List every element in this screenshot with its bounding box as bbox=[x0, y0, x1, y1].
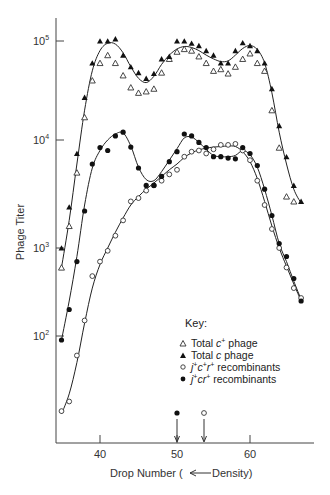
legend-item-jcr-plus: j+cr+ recombinants bbox=[181, 373, 277, 385]
open-circle-marker-icon bbox=[270, 227, 275, 232]
filled-triangle-marker-icon bbox=[203, 48, 209, 53]
open-triangle-marker-icon bbox=[196, 54, 202, 59]
filled-circle-marker-icon bbox=[151, 183, 156, 188]
open-triangle-marker-icon bbox=[82, 114, 88, 119]
y-axis-title: Phage Titer bbox=[14, 204, 26, 261]
legend-label-total-c-plus: Total c+ phage bbox=[191, 337, 258, 349]
phage-titer-chart: 105 104 103 102 40 50 60 Phage Titer Dro… bbox=[0, 0, 330, 495]
filled-circle-marker-icon bbox=[291, 276, 296, 281]
filled-circle-marker-icon bbox=[90, 161, 95, 166]
filled-circle-marker-icon bbox=[226, 156, 231, 161]
open-triangle-marker-icon bbox=[105, 52, 111, 57]
filled-triangle-marker-icon bbox=[240, 40, 246, 45]
open-circle-marker-icon bbox=[262, 203, 267, 208]
filled-triangle-marker-icon bbox=[181, 38, 187, 43]
legend-title: Key: bbox=[185, 317, 207, 329]
y-tick-label-1e4: 104 bbox=[33, 133, 49, 146]
open-circle-marker-icon bbox=[204, 151, 209, 156]
filled-circle-marker-icon bbox=[233, 156, 238, 161]
filled-circle-marker-icon bbox=[113, 133, 118, 138]
open-triangle-marker-icon bbox=[211, 68, 217, 73]
open-circle-marker-icon bbox=[121, 218, 126, 223]
filled-circle-marker-icon bbox=[299, 298, 304, 303]
open-triangle-marker-icon bbox=[232, 64, 238, 69]
filled-circle-marker-icon bbox=[189, 133, 194, 138]
filled-circle-marker-icon bbox=[67, 307, 72, 312]
filled-circle-marker-icon bbox=[247, 151, 252, 156]
filled-triangle-marker-icon bbox=[232, 48, 238, 53]
filled-circle-marker-icon bbox=[159, 174, 164, 179]
legend-label-jcr-plus-plus: j+c+r+ recombinants bbox=[189, 361, 280, 373]
x-tick-label-40: 40 bbox=[94, 448, 106, 460]
open-circle-marker-icon bbox=[82, 318, 87, 323]
open-circle-marker-icon bbox=[189, 149, 194, 154]
filled-circle-marker-icon bbox=[284, 254, 289, 259]
open-circle-marker-icon bbox=[144, 188, 149, 193]
filled-triangle-marker-icon bbox=[97, 38, 103, 43]
filled-circle-marker-icon bbox=[105, 148, 110, 153]
open-circle-marker-icon bbox=[226, 143, 231, 148]
open-triangle-marker-icon bbox=[66, 223, 72, 228]
legend-item-total-c-plus: Total c+ phage bbox=[180, 337, 258, 349]
legend-item-jcr-plus-plus: j+c+r+ recombinants bbox=[181, 361, 281, 373]
open-triangle-marker-icon bbox=[247, 51, 253, 56]
filled-circle-marker-icon bbox=[82, 208, 87, 213]
open-triangle-marker-icon bbox=[120, 73, 126, 78]
filled-triangle-marker-icon bbox=[254, 48, 260, 53]
open-triangle-icon bbox=[180, 341, 186, 347]
filled-triangle-marker-icon bbox=[120, 52, 126, 57]
open-circle-marker-icon bbox=[113, 233, 118, 238]
open-circle-marker-icon bbox=[136, 196, 141, 201]
filled-circle-marker-icon bbox=[59, 337, 64, 342]
y-ticks: 105 104 103 102 bbox=[33, 34, 64, 342]
open-triangle-marker-icon bbox=[203, 60, 209, 65]
open-circle-marker-icon bbox=[182, 154, 187, 159]
open-circle-marker-icon bbox=[211, 147, 216, 152]
filled-circle-marker-icon bbox=[262, 187, 267, 192]
open-triangle-marker-icon bbox=[136, 90, 142, 95]
open-triangle-marker-icon bbox=[269, 107, 275, 112]
open-circle-marker-icon bbox=[98, 259, 103, 264]
filled-triangle-marker-icon bbox=[166, 54, 172, 59]
filled-circle-marker-icon bbox=[182, 131, 187, 136]
y-tick-label-1e2: 102 bbox=[33, 329, 49, 342]
filled-triangle-marker-icon bbox=[128, 64, 134, 69]
filled-triangle-marker-icon bbox=[143, 75, 149, 80]
open-triangle-marker-icon bbox=[225, 71, 231, 76]
peak-annotations bbox=[174, 410, 206, 442]
x-ticks: 40 50 60 bbox=[94, 435, 256, 460]
open-triangle-marker-icon bbox=[240, 56, 246, 61]
open-circle-marker-icon bbox=[67, 399, 72, 404]
open-circle-marker-icon bbox=[255, 178, 260, 183]
filled-triangle-marker-icon bbox=[136, 70, 142, 75]
x-axis-title: Drop Number ( Density) bbox=[110, 467, 252, 479]
open-circle-marker-icon bbox=[128, 199, 133, 204]
filled-circle-marker-icon bbox=[204, 145, 209, 150]
x-axis-title-start: Drop Number ( bbox=[110, 467, 183, 479]
legend-label-total-c: Total c phage bbox=[191, 349, 254, 361]
fit-curves bbox=[62, 43, 302, 414]
open-circle-marker-icon bbox=[202, 411, 207, 416]
filled-circle-marker-icon bbox=[196, 140, 201, 145]
filled-circle-marker-icon bbox=[97, 145, 102, 150]
filled-triangle-marker-icon bbox=[112, 36, 118, 41]
filled-circle-marker-icon bbox=[128, 145, 133, 150]
open-circle-marker-icon bbox=[197, 148, 202, 153]
open-circle-marker-icon bbox=[167, 172, 172, 177]
open-triangle-marker-icon bbox=[59, 265, 65, 270]
open-triangle-marker-icon bbox=[128, 85, 134, 90]
filled-circle-marker-icon bbox=[144, 183, 149, 188]
filled-circle-marker-icon bbox=[211, 154, 216, 159]
filled-circle-marker-icon bbox=[167, 159, 172, 164]
filled-circle-marker-icon bbox=[240, 145, 245, 150]
open-circle-marker-icon bbox=[90, 274, 95, 279]
legend: Key: Total c+ phage Total c phage j+c+r+… bbox=[180, 317, 280, 385]
filled-triangle-marker-icon bbox=[159, 56, 165, 61]
open-circle-marker-icon bbox=[248, 158, 253, 163]
filled-triangle-marker-icon bbox=[196, 43, 202, 48]
filled-triangle-marker-icon bbox=[269, 86, 275, 91]
fit-curve bbox=[62, 132, 302, 340]
filled-triangle-marker-icon bbox=[262, 60, 268, 65]
y-tick-label-1e3: 103 bbox=[33, 241, 49, 254]
open-triangle-marker-icon bbox=[151, 86, 157, 91]
